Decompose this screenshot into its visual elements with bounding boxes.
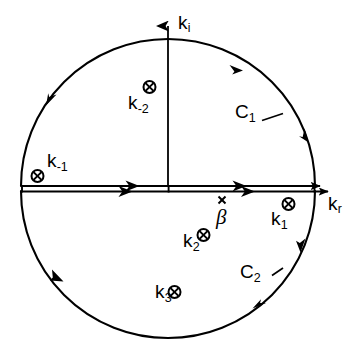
pole-marker-k-minus-1-icon	[32, 170, 44, 182]
pole-marker-k-minus-2-icon	[144, 81, 156, 93]
pole-label-k-2: k2	[183, 231, 200, 253]
contour-diagram-figure: ki kr C1 C2 k-1 k-2 k1 k2 k3 β	[0, 0, 360, 345]
pole-label-k-minus-2: k-2	[128, 93, 149, 115]
branch-point-cross-icon	[219, 197, 226, 204]
imaginary-axis-label: ki	[178, 13, 190, 34]
contour-c1-direction-arrow-top	[230, 65, 244, 75]
pole-label-k-3: k3	[155, 282, 172, 304]
branch-point-label-beta: β	[216, 207, 226, 228]
contour-c2-direction-arrow-left	[50, 270, 64, 282]
pole-label-k-minus-1: k-1	[47, 151, 68, 173]
contour-c2-leader-line	[272, 268, 283, 276]
branch-cut-upper-lip	[22, 181, 320, 192]
contour-label-c1: C1	[235, 102, 256, 124]
pole-label-k-1: k1	[271, 209, 288, 231]
contour-c1-leader-line	[262, 114, 283, 121]
branch-cut-lower-lip	[22, 186, 328, 197]
real-axis-label: kr	[328, 194, 342, 215]
contour-label-c2: C2	[240, 262, 261, 284]
